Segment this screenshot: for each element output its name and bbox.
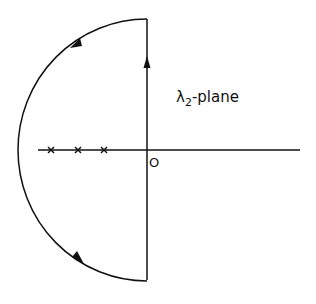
contour-drawing xyxy=(0,0,316,304)
arrow-lower-arc-icon xyxy=(72,251,84,264)
lambda-symbol: λ xyxy=(176,88,185,106)
origin-label: O xyxy=(149,155,159,170)
plane-subscript: 2 xyxy=(185,96,192,109)
plane-label: λ2-plane xyxy=(176,88,239,109)
lambda2-plane-diagram: λ2-plane O xyxy=(0,0,316,304)
arrow-up-icon xyxy=(144,56,151,68)
plane-suffix: -plane xyxy=(192,88,239,106)
